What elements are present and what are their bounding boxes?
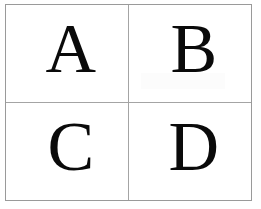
image-canvas: A B C D xyxy=(0,0,261,209)
letter-d: D xyxy=(168,112,219,182)
letter-a: A xyxy=(45,14,96,84)
grid-cell-a[interactable]: A xyxy=(6,5,129,103)
grid-cell-c[interactable]: C xyxy=(6,103,129,201)
grid-cell-d[interactable]: D xyxy=(129,103,252,201)
letter-c: C xyxy=(47,112,94,182)
letter-b: B xyxy=(170,14,217,84)
letter-grid: A B C D xyxy=(5,4,252,201)
grid-cell-b[interactable]: B xyxy=(129,5,252,103)
